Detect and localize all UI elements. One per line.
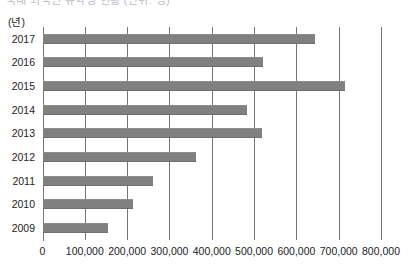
x-axis-label-200000: 200,000 [108, 245, 146, 257]
gridline [381, 27, 382, 240]
plot-area [43, 27, 382, 240]
x-axis-label-0: 0 [40, 245, 46, 257]
y-axis-label-2017: 2017 [12, 27, 35, 51]
y-axis-label-2015: 2015 [12, 74, 35, 98]
bar-2009 [43, 223, 109, 233]
bar-row [43, 98, 382, 122]
y-axis-label-2009: 2009 [12, 216, 35, 240]
bar-row [43, 51, 382, 75]
bar-2011 [43, 176, 153, 186]
bar-2013 [43, 128, 262, 138]
x-axis-label-800000: 800,000 [362, 245, 400, 257]
bar-2016 [43, 57, 263, 67]
bar-row [43, 74, 382, 98]
bar-2014 [43, 105, 247, 115]
y-axis-label-2016: 2016 [12, 51, 35, 75]
y-axis-label-2014: 2014 [12, 98, 35, 122]
bar-2010 [43, 199, 134, 209]
bar-row [43, 216, 382, 240]
bar-2012 [43, 152, 196, 162]
y-axis-tick-labels: 201720162015201420132012201120102009 [0, 27, 39, 240]
y-axis-label-2011: 2011 [12, 169, 35, 193]
x-axis-label-600000: 600,000 [277, 245, 315, 257]
y-axis-label-2010: 2010 [12, 193, 35, 217]
x-axis-label-500000: 500,000 [235, 245, 273, 257]
x-axis-label-100000: 100,000 [66, 245, 104, 257]
bar-2017 [43, 34, 316, 44]
horizontal-bar-chart: (년) 201720162015201420132012201120102009… [0, 0, 420, 268]
bar-row [43, 122, 382, 146]
bar-row [43, 27, 382, 51]
bar-row [43, 145, 382, 169]
x-axis-label-700000: 700,000 [320, 245, 358, 257]
bar-row [43, 193, 382, 217]
x-axis-label-300000: 300,000 [150, 245, 188, 257]
bar-2015 [43, 81, 346, 91]
x-axis-label-400000: 400,000 [193, 245, 231, 257]
x-axis-tick-labels: 0100,000200,000300,000400,000500,000600,… [0, 245, 420, 261]
bar-series [43, 27, 382, 240]
bar-row [43, 169, 382, 193]
y-axis-label-2012: 2012 [12, 145, 35, 169]
y-axis-label-2013: 2013 [12, 122, 35, 146]
